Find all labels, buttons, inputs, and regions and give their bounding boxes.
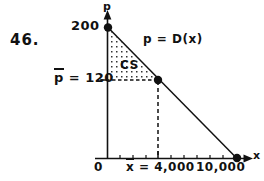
p-axis-label: p	[103, 1, 111, 12]
cs-region-label: CS	[120, 59, 139, 71]
xbar-value: = 4,000	[134, 160, 194, 174]
p-intercept-tick-label: 200	[71, 19, 100, 32]
x-intercept-tick-label: 10,000	[196, 161, 245, 173]
origin-tick-label: 0	[94, 161, 102, 173]
x-axis-label: x	[253, 150, 260, 161]
figure-canvas	[0, 0, 264, 181]
quantity-tick-label: x = 4,000	[126, 161, 195, 173]
consumers-surplus-figure: 46. p x 200 p = 120 0 x = 4,000 10,000 p…	[0, 0, 264, 181]
xbar-symbol: x	[126, 161, 134, 173]
price-tick-label: p = 120	[54, 71, 114, 84]
data-point-p-intercept	[104, 23, 112, 31]
data-point-equilibrium	[154, 76, 162, 84]
problem-number: 46.	[10, 33, 40, 48]
x-axis-ticks	[120, 151, 223, 158]
pbar-value: = 120	[64, 70, 114, 85]
demand-curve	[108, 28, 237, 159]
demand-curve-label: p = D(x)	[143, 33, 203, 45]
pbar-symbol: p	[54, 71, 64, 84]
